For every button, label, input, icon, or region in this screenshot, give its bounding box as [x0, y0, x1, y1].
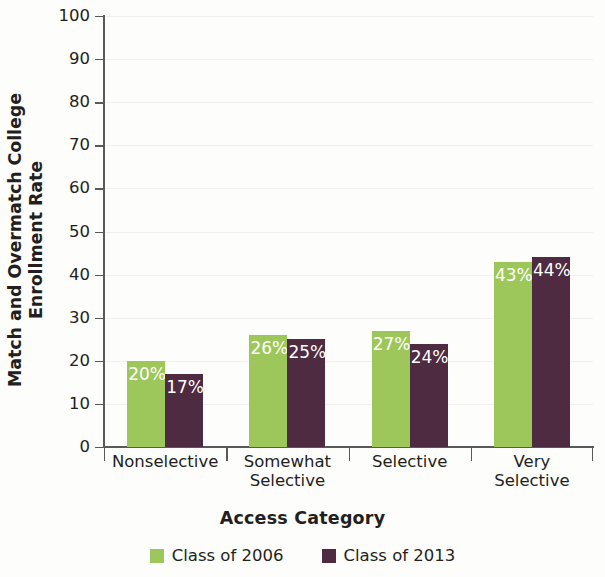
legend-swatch-purple-icon	[322, 549, 336, 563]
y-axis-tick-label: 80	[50, 94, 90, 111]
x-axis-category-label-line: Selective	[471, 471, 593, 490]
bar-chart: Match and Overmatch College Enrollment R…	[0, 0, 605, 577]
y-axis-tick	[95, 188, 104, 189]
y-axis-tick	[95, 232, 104, 233]
x-axis-category-label-line: Selective	[226, 471, 348, 490]
y-axis-tick-label: 40	[50, 267, 90, 284]
bar	[494, 262, 532, 447]
legend-item: Class of 2013	[322, 548, 456, 565]
y-axis-title: Match and Overmatch College Enrollment R…	[0, 40, 52, 440]
chart-legend: Class of 2006Class of 2013	[0, 548, 605, 565]
x-axis-category-label-line: Nonselective	[104, 452, 226, 471]
y-axis-tick-label: 50	[50, 224, 90, 241]
x-axis-category-label: VerySelective	[471, 452, 593, 491]
y-axis-tick-label: 90	[50, 51, 90, 68]
x-axis-category-label-line: Selective	[349, 452, 471, 471]
bar-value-label: 17%	[166, 379, 204, 396]
y-axis-tick-label: 100	[50, 8, 90, 25]
bar-value-label: 25%	[288, 344, 326, 361]
x-axis-category-label-line: Somewhat	[226, 452, 348, 471]
y-axis-title-line-1: Match and Overmatch College	[5, 93, 25, 387]
legend-item: Class of 2006	[150, 548, 284, 565]
bar-value-label: 24%	[411, 349, 449, 366]
bar-value-label: 44%	[533, 262, 571, 279]
x-axis-category-label: SomewhatSelective	[226, 452, 348, 491]
bar-value-label: 27%	[373, 336, 411, 353]
y-axis-tick-label: 20	[50, 353, 90, 370]
y-axis-tick	[95, 361, 104, 362]
y-axis-tick	[95, 145, 104, 146]
y-axis-tick	[95, 447, 104, 448]
y-axis-tick	[95, 404, 104, 405]
bar-value-label: 43%	[495, 267, 533, 284]
x-axis-title: Access Category	[0, 508, 605, 528]
x-axis-category-label: Nonselective	[104, 452, 226, 471]
legend-label: Class of 2013	[344, 548, 456, 565]
y-axis-tick	[95, 16, 104, 17]
y-axis-tick-label: 0	[50, 439, 90, 456]
y-axis-tick	[95, 275, 104, 276]
x-axis-category-label: Selective	[349, 452, 471, 471]
legend-swatch-green-icon	[150, 549, 164, 563]
y-axis-tick-label: 70	[50, 137, 90, 154]
bar-value-label: 20%	[128, 366, 166, 383]
y-axis-title-text: Match and Overmatch College Enrollment R…	[5, 93, 46, 387]
y-axis-tick	[95, 318, 104, 319]
y-axis-title-line-2: Enrollment Rate	[26, 161, 46, 319]
bar	[532, 257, 570, 447]
y-axis-tick-label: 30	[50, 310, 90, 327]
legend-label: Class of 2006	[172, 548, 284, 565]
y-axis-tick	[95, 102, 104, 103]
y-axis-tick-label: 10	[50, 396, 90, 413]
y-axis-tick-label: 60	[50, 180, 90, 197]
y-axis-tick	[95, 59, 104, 60]
bars-layer: 20%17%26%25%27%24%43%44%	[104, 16, 593, 447]
bar-value-label: 26%	[250, 340, 288, 357]
x-axis-category-label-line: Very	[471, 452, 593, 471]
